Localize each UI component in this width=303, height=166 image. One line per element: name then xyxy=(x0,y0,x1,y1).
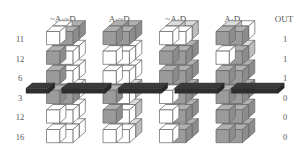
cube-r5-c0-0-front xyxy=(47,130,60,143)
cube-r1-c0-0-front xyxy=(47,51,60,64)
cube-r2-c3-0-front xyxy=(216,71,229,84)
row-label-0: 11 xyxy=(16,34,24,44)
row-label-2: 6 xyxy=(18,73,22,83)
out-value-5: 0 xyxy=(283,132,287,142)
row-label-1: 12 xyxy=(16,54,25,64)
cube-r2-c1-0-front xyxy=(103,71,116,84)
cube-r0-c1-0-front xyxy=(103,32,116,45)
cube-r1-c2-0-front xyxy=(160,51,173,64)
cube-r0-c2-0-front xyxy=(160,32,173,45)
cube-r4-c1-0-front xyxy=(103,110,116,123)
band-top-4 xyxy=(231,83,284,88)
cube-r1-c3-0-front xyxy=(216,51,229,64)
row-label-5: 16 xyxy=(16,132,25,142)
band-front-2 xyxy=(118,88,161,93)
cube-r0-c0-0-front xyxy=(47,32,60,45)
cube-r4-c2-0-front xyxy=(160,110,173,123)
cube-r5-c1-0-front xyxy=(103,130,116,143)
band-front-4 xyxy=(231,88,278,93)
band-top-3 xyxy=(175,83,225,88)
cube-r5-c3-0-front xyxy=(216,130,229,143)
cube-r2-c2-0-front xyxy=(160,71,173,84)
out-column-header: OUT xyxy=(275,14,294,24)
row-label-4: 12 xyxy=(16,112,25,122)
band-top-1 xyxy=(62,83,111,88)
cube-r5-c2-0-front xyxy=(160,130,173,143)
cube-lattice-figure: ~A·~DA·~D~A·DA·DOUT 1112631216 111000 xyxy=(0,0,303,166)
cube-r0-c3-0-front xyxy=(216,32,229,45)
cube-r2-c0-0-front xyxy=(47,71,60,84)
row-label-3: 3 xyxy=(18,93,22,103)
cube-r4-c3-0-front xyxy=(216,110,229,123)
out-value-2: 1 xyxy=(283,73,287,83)
cube-r1-c1-0-front xyxy=(103,51,116,64)
band-front-1 xyxy=(62,88,105,93)
cube-r4-c0-0-front xyxy=(47,110,60,123)
out-value-1: 1 xyxy=(283,54,287,64)
band-top-2 xyxy=(118,83,168,88)
band-front-0 xyxy=(26,88,49,93)
out-value-4: 0 xyxy=(283,112,287,122)
out-value-0: 1 xyxy=(283,34,287,44)
band-front-3 xyxy=(175,88,218,93)
out-value-3: 0 xyxy=(283,93,287,103)
